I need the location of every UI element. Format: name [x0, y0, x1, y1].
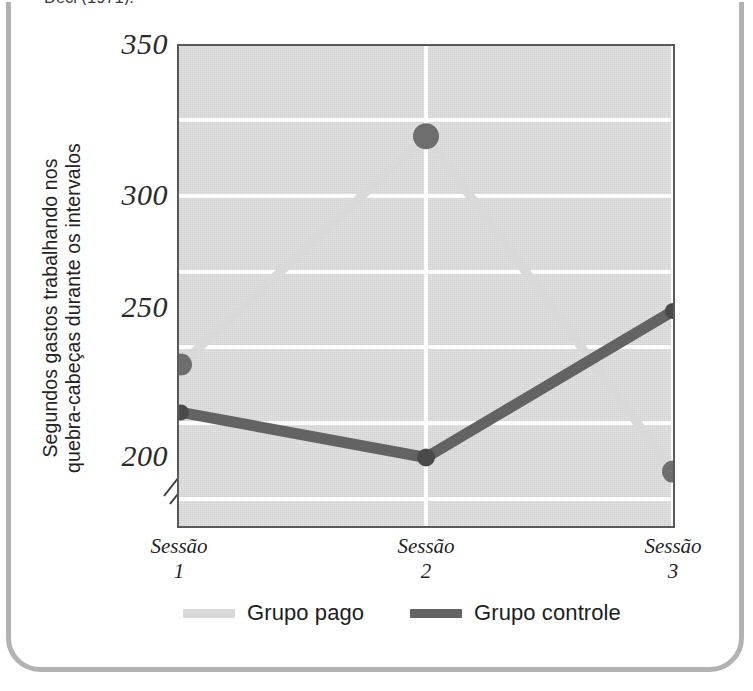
plot-area [177, 44, 675, 528]
y-axis-title-line-1: Segundos gastos trabalhando nos [39, 158, 61, 457]
legend-swatch-grupo-pago [183, 609, 235, 618]
x-tick-number: 3 [593, 559, 753, 584]
y-tick-label: 200 [92, 439, 168, 473]
y-axis-title-line-2: quebra-cabeças durante os intervalos [62, 143, 84, 473]
x-tick-name: Sessão [150, 534, 207, 558]
legend-swatch-grupo-controle [410, 609, 462, 618]
y-tick-label: 250 [92, 290, 168, 324]
data-series-layer [179, 46, 675, 528]
chart-legend: Grupo pago Grupo controle [0, 600, 753, 640]
x-tick-name: Sessão [644, 534, 701, 558]
y-tick-label: 350 [92, 27, 168, 61]
legend-label-grupo-controle: Grupo controle [474, 600, 621, 626]
legend-item-grupo-controle: Grupo controle [410, 600, 621, 626]
y-tick-label: 300 [92, 178, 168, 212]
line-chart: Segundos gastos trabalhando nos quebra-c… [0, 0, 753, 691]
x-tick-number: 2 [346, 559, 506, 584]
y-axis-title: Segundos gastos trabalhando nos quebra-c… [39, 98, 85, 518]
data-point-grupo-controle-sessao-2 [417, 449, 435, 467]
x-tick-label-sessao-2: Sessão 2 [346, 534, 506, 584]
x-tick-label-sessao-3: Sessão 3 [593, 534, 753, 584]
legend-item-grupo-pago: Grupo pago [183, 600, 364, 626]
series-line-grupo-controle [181, 311, 673, 458]
data-point-grupo-pago-sessao-2 [413, 123, 439, 149]
x-axis-tick-labels: Sessão 1 Sessão 2 Sessão 3 [0, 534, 753, 594]
x-tick-label-sessao-1: Sessão 1 [99, 534, 259, 584]
x-tick-name: Sessão [397, 534, 454, 558]
legend-label-grupo-pago: Grupo pago [247, 600, 364, 626]
x-tick-number: 1 [99, 559, 259, 584]
